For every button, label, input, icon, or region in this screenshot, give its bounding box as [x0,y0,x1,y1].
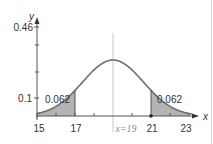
normal-distribution-chart: y 0.46 0.1 x 15 17 x=19 21 23 0.062 0.06… [0,0,213,144]
x21-marker [149,114,153,118]
x-tick-label-23: 23 [180,123,192,134]
x-tick-label-17: 17 [70,123,82,134]
right-area-label: 0.062 [157,94,182,105]
x-tick-label-15: 15 [33,123,45,134]
x-axis-arrow-icon [192,114,199,119]
y-axis-arrow-icon [35,17,40,24]
y-axis-label: y [28,11,35,22]
x-tick-label-21: 21 [146,123,158,134]
y-tick-label-top: 0.46 [14,22,34,33]
y-tick-label-mid: 0.1 [18,93,32,104]
left-area-label: 0.062 [45,94,70,105]
mean-label: x=19 [114,123,136,134]
x-axis-label: x [202,111,209,122]
